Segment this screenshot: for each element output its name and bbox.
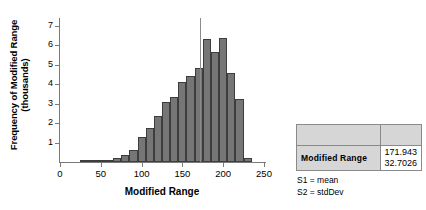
histogram-bar <box>178 82 186 162</box>
histogram-bar <box>235 99 243 162</box>
x-tick-label: 0 <box>48 168 72 179</box>
histogram-bar <box>162 102 170 162</box>
y-tick-label: 2 <box>39 117 53 127</box>
histogram-figure: Frequency of Modified Range (thousands) … <box>0 0 426 210</box>
histogram-bar <box>195 68 203 162</box>
x-tick-mark <box>142 162 143 167</box>
x-tick-label: 50 <box>89 168 113 179</box>
y-axis-title-line2: (thousands) <box>19 10 30 160</box>
histogram-bar <box>97 160 105 162</box>
histogram-bar <box>138 137 146 162</box>
y-tick-label: 1 <box>39 137 53 147</box>
histogram-bar <box>244 158 252 162</box>
x-axis-title: Modified Range <box>60 186 264 197</box>
x-tick-mark <box>264 162 265 167</box>
table-values: 171.943 32.7026 <box>381 146 421 170</box>
statistics-table[interactable]: Modified Range 171.943 32.7026 <box>296 124 422 171</box>
y-axis-title: Frequency of Modified Range (thousands) <box>8 10 30 160</box>
mean-reference-line <box>200 18 201 162</box>
x-tick-label: 100 <box>130 168 154 179</box>
x-axis-line <box>59 162 266 163</box>
table-row-label: Modified Range <box>297 146 381 170</box>
y-tick-label: 7 <box>39 20 53 30</box>
plot-area <box>60 18 264 162</box>
histogram-bar <box>80 160 88 162</box>
histogram-bar <box>113 158 121 162</box>
x-tick-label: 200 <box>211 168 235 179</box>
stat-stddev-value: 32.7026 <box>384 158 417 169</box>
x-tick-mark <box>60 162 61 167</box>
x-tick-label: 250 <box>252 168 276 179</box>
y-tick-label: 4 <box>39 78 53 88</box>
y-tick-label: 6 <box>39 39 53 49</box>
legend-s2: S2 = stdDev <box>297 186 344 198</box>
histogram-bar <box>170 97 178 162</box>
histogram-bar <box>121 155 129 162</box>
histogram-bar <box>105 160 113 162</box>
table-header-right <box>381 125 421 146</box>
table-header-left <box>297 125 381 146</box>
histogram-bar <box>89 160 97 162</box>
histogram-bar <box>203 39 211 162</box>
y-axis-title-line1: Frequency of Modified Range <box>8 20 19 150</box>
stat-mean-value: 171.943 <box>384 147 417 158</box>
stats-legend: S1 = mean S2 = stdDev <box>297 174 344 198</box>
histogram-bar <box>129 150 137 162</box>
x-tick-label: 150 <box>170 168 194 179</box>
histogram-bar <box>211 52 219 162</box>
legend-s1: S1 = mean <box>297 174 344 186</box>
histogram-bar <box>146 128 154 162</box>
y-tick-label: 5 <box>39 59 53 69</box>
x-tick-mark <box>223 162 224 167</box>
histogram-bar <box>227 73 235 162</box>
histogram-bar <box>219 38 227 162</box>
y-tick-label: 3 <box>39 98 53 108</box>
chart-panel: Frequency of Modified Range (thousands) … <box>0 0 290 210</box>
x-tick-mark <box>101 162 102 167</box>
x-tick-mark <box>182 162 183 167</box>
histogram-bar <box>154 116 162 162</box>
histogram-bar <box>186 76 194 162</box>
